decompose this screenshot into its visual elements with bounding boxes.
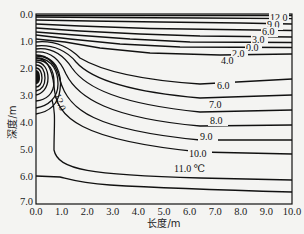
contour-label-11: 11.0 ℃ (174, 163, 205, 174)
y-tick-2: 2.0 (20, 63, 33, 74)
x-tick-1: 1.0 (55, 206, 68, 217)
y-tick-3: 3.0 (20, 90, 33, 101)
contour-bottom (36, 176, 292, 192)
heat-source-core (36, 70, 40, 84)
contour-chart: 12.0 9.0 6.0 3.0 0.0 2.0 4.0 6.0 7.0 8.0… (0, 0, 304, 234)
y-axis: 0.0 1.0 2.0 3.0 4.0 5.0 6.0 7.0 深度/m (6, 9, 33, 207)
x-tick-7: 7.0 (209, 206, 222, 217)
x-tick-2: 2.0 (81, 206, 94, 217)
y-tick-4: 4.0 (20, 117, 33, 128)
contour-12 (36, 17, 292, 19)
y-tick-5: 5.0 (20, 144, 33, 155)
contour-label-9-deep: 9.0 (200, 131, 213, 142)
y-tick-1: 1.0 (20, 36, 33, 47)
x-tick-3: 3.0 (106, 206, 119, 217)
y-tick-6: 6.0 (20, 171, 33, 182)
x-tick-5: 5.0 (157, 206, 170, 217)
x-tick-4: 4.0 (132, 206, 145, 217)
contour-6a (36, 24, 292, 31)
y-axis-title: 深度/m (6, 105, 18, 138)
contour-label-6: 6.0 (217, 80, 230, 91)
contour-9b (36, 52, 292, 126)
contour-label-7: 7.0 (209, 99, 222, 110)
contour-label-4: 4.0 (221, 55, 234, 66)
contour-9 (36, 20, 292, 24)
x-axis-title: 长度/m (147, 217, 180, 229)
x-tick-10: 10.0 (283, 206, 301, 217)
x-tick-0: 0.0 (29, 206, 42, 217)
contour-10 (36, 55, 292, 140)
contour-label-10: 10.0 (189, 148, 207, 159)
x-tick-6: 6.0 (183, 206, 196, 217)
x-tick-8: 8.0 (234, 206, 247, 217)
contour-label-8: 8.0 (210, 115, 223, 126)
y-tick-0: 0.0 (20, 9, 33, 20)
x-tick-9: 9.0 (260, 206, 273, 217)
x-axis: 0.0 1.0 2.0 3.0 4.0 5.0 6.0 7.0 8.0 9.0 … (29, 206, 301, 229)
